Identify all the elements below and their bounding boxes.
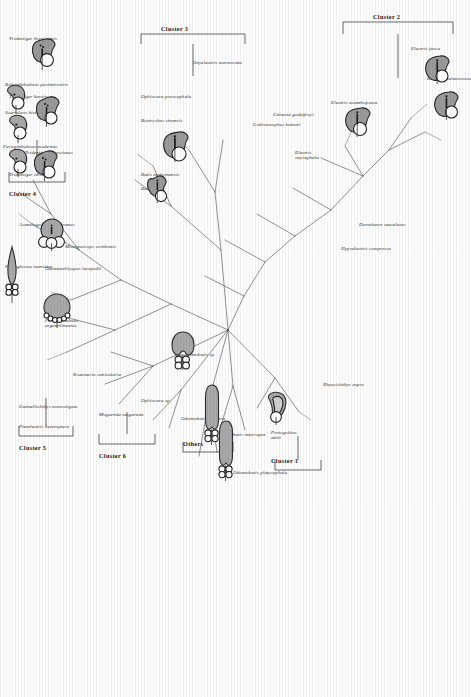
taxon-label-mogurnda-mogurnda: Mogurnda mogurnda bbox=[99, 412, 144, 417]
otolith-illustration-odontobutis-platycephala bbox=[214, 419, 238, 481]
taxon-label-eleotris-fusca: Eleotris fusca bbox=[411, 46, 440, 51]
otolith-illustration-bostrychus-sinensis bbox=[159, 130, 195, 162]
cluster-label-6: Cluster 6 bbox=[99, 452, 126, 459]
cluster-label-2: Cluster 2 bbox=[373, 13, 400, 20]
taxon-label-gunnellichthys-monostigma: Gunnellichthys monostigma bbox=[19, 404, 77, 409]
otolith-illustration-neoodontobutis bbox=[169, 330, 197, 370]
taxon-label-oxyeleotris-marmorata: Oxyeleotris marmorata bbox=[193, 60, 242, 65]
taxon-label-calumia-godeffroyi: Calumia godeffroyi bbox=[273, 112, 314, 117]
taxon-label-odontobutis-platycephala: Odontobutis platycephala bbox=[233, 470, 287, 475]
taxon-label-ophiocara-porocephala: Ophiocara porocephala bbox=[141, 94, 191, 99]
otolith-illustration-acanthogobius-flavimanus bbox=[36, 217, 68, 251]
tree-canvas: Cluster 1 Cluster 2 Cluster 3 Cluster 4 … bbox=[0, 0, 471, 697]
otolith-illustration-scartelaos-histophorus bbox=[2, 113, 34, 143]
tree-branches bbox=[0, 0, 471, 697]
otolith-illustration-tridentiger-obscurus bbox=[32, 95, 66, 127]
taxon-label-bostrychus-sinensis: Bostrychus sinensis bbox=[141, 118, 182, 123]
taxon-label-protogobius-attiti: Protogobius attiti bbox=[271, 430, 307, 441]
taxon-label-ophiocara-sp: Ophiocara sp. bbox=[141, 398, 171, 403]
otolith-illustration-eleotris-acanthopoma bbox=[342, 105, 376, 137]
cluster-label-5: Cluster 5 bbox=[19, 444, 46, 451]
taxon-label-kraemeria-cunicularia: Kraemeria cunicularia bbox=[73, 372, 121, 377]
otolith-illustration-rhyacichthys-aspro bbox=[260, 391, 292, 425]
otolith-illustration-tridentiger-bifasciatus bbox=[30, 149, 64, 181]
otolith-illustration-eleotris-melanosoma bbox=[431, 90, 465, 120]
cluster-label-3: Cluster 3 bbox=[161, 25, 188, 32]
taxon-label-hypseleotris-compressa: Hypseleotris compressa bbox=[341, 246, 391, 251]
otolith-illustration-periophthalmus-modestus bbox=[2, 147, 34, 177]
taxon-label-gobiomorphus-huttoni: Gobiomorphus huttoni bbox=[253, 122, 300, 127]
otolith-illustration-tridentiger-kuroiwae bbox=[27, 36, 61, 70]
otolith-illustration-parioglossus-taeniatus bbox=[0, 245, 24, 303]
taxon-label-ptereleotris-heteroptera: Ptereleotris heteroptera bbox=[19, 424, 69, 429]
otolith-illustration-periophthalmus-argentilineatus bbox=[39, 292, 75, 328]
cluster-label-1: Cluster 1 bbox=[271, 457, 298, 464]
otolith-illustration-boleophthalmus-pectinirostris bbox=[0, 83, 32, 113]
taxon-label-rhyacichthys-aspro: Rhyacichthys aspro bbox=[323, 382, 364, 387]
taxon-label-odontamblyopus-lacepedii: Odontamblyopus lacepedii bbox=[45, 266, 101, 271]
taxon-label-micropercops-swinhonis: Micropercops swinhonis bbox=[65, 244, 116, 249]
taxon-label-dormitator-maculatus: Dormitator maculatus bbox=[359, 222, 406, 227]
otolith-illustration-eleotris-fusca bbox=[421, 54, 455, 84]
otolith-illustration-butis bbox=[144, 173, 176, 203]
taxon-label-eleotris-oxycephala: Eleotris oxycephala bbox=[295, 150, 335, 161]
figure-root: Cluster 1 Cluster 2 Cluster 3 Cluster 4 … bbox=[0, 0, 471, 697]
cluster-label-4: Cluster 4 bbox=[9, 190, 36, 197]
